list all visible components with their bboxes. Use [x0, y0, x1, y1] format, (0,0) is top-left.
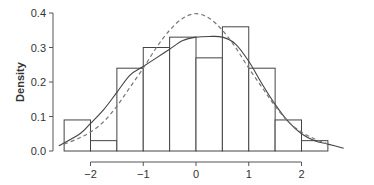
chart-container: 0.00.10.20.30.4 −2−1012 Density: [0, 0, 374, 185]
y-axis-label: Density: [14, 61, 26, 102]
histogram-bar: [222, 27, 248, 151]
histogram-bar: [170, 37, 196, 151]
x-axis: −2−1012: [84, 162, 304, 180]
density-histogram-chart: 0.00.10.20.30.4 −2−1012 Density: [0, 0, 374, 185]
x-tick-label: −2: [84, 168, 97, 180]
histogram-bar: [117, 68, 143, 151]
y-tick-label: 0.4: [31, 7, 46, 19]
histogram-bar: [91, 141, 117, 151]
y-axis: 0.00.10.20.30.4: [31, 7, 53, 157]
y-tick-label: 0.1: [31, 111, 46, 123]
y-tick-label: 0.0: [31, 145, 46, 157]
histogram-bar: [196, 58, 222, 151]
x-tick-label: −1: [137, 168, 150, 180]
x-tick-label: 0: [193, 168, 199, 180]
histogram-bar: [249, 68, 275, 151]
y-tick-label: 0.3: [31, 42, 46, 54]
x-tick-label: 2: [298, 168, 304, 180]
histogram-bar: [275, 120, 301, 151]
histogram-bar: [302, 141, 328, 151]
histogram-bars: [64, 27, 328, 151]
y-tick-label: 0.2: [31, 76, 46, 88]
x-tick-label: 1: [246, 168, 252, 180]
